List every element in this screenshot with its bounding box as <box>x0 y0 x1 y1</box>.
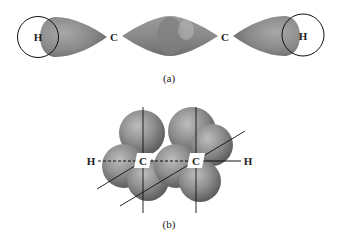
caption-a: (a) <box>163 72 176 85</box>
label-c-right-a: C <box>221 31 229 43</box>
label-c-right-b: C <box>192 155 200 167</box>
orbital-diagram: H C C H (a) H C C H (b) <box>0 0 338 239</box>
label-h-right-a: H <box>299 30 308 42</box>
label-h-right-b: H <box>244 155 253 167</box>
center-overlap-region <box>157 17 183 55</box>
caption-b: (b) <box>163 218 176 231</box>
label-h-left-a: H <box>34 31 43 43</box>
figure-b: H C C H (b) <box>87 107 253 231</box>
label-c-left-a: C <box>110 31 118 43</box>
right-sigma-lobe <box>233 16 300 56</box>
center-highlight <box>178 20 194 40</box>
label-h-left-b: H <box>87 155 96 167</box>
left-sigma-lobe <box>40 17 107 57</box>
label-c-left-b: C <box>139 155 147 167</box>
figure-a: H C C H (a) <box>18 14 325 85</box>
